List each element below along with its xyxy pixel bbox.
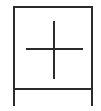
boxed-plus-symbol: [0, 0, 101, 111]
diagram-canvas: [0, 0, 101, 111]
